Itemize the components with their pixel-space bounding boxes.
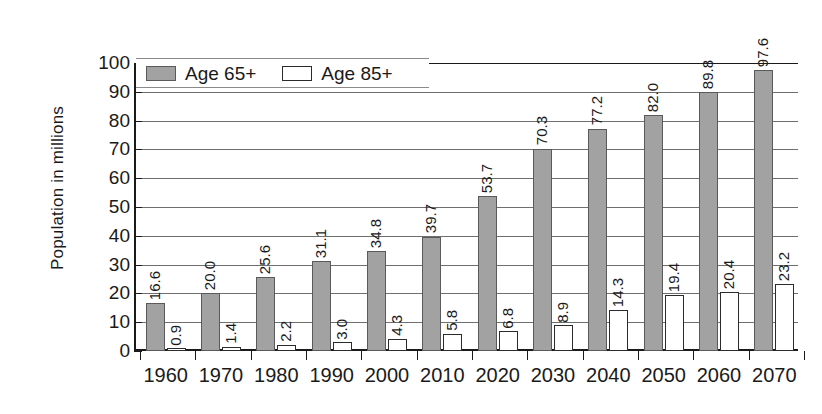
bar-age-85 <box>720 292 739 351</box>
bar-age-65 <box>146 303 165 351</box>
bar-age-85 <box>499 331 518 351</box>
x-tick-label: 1960 <box>138 364 194 386</box>
y-tick-label: 0 <box>86 341 130 360</box>
x-tick-label: 2020 <box>470 364 526 386</box>
bar-value-label-age-65: 20.0 <box>202 261 217 290</box>
bar-age-65 <box>644 115 663 351</box>
y-tick-label: 90 <box>86 82 130 101</box>
x-tick-label: 1970 <box>193 364 249 386</box>
x-tick-label: 2010 <box>414 364 470 386</box>
bar-value-label-age-65: 70.3 <box>534 116 549 145</box>
bar-value-label-age-85: 1.4 <box>223 323 238 344</box>
y-tick-label: 20 <box>86 283 130 302</box>
bar-age-65 <box>422 237 441 351</box>
x-tick-label: 1990 <box>304 364 360 386</box>
bar-value-label-age-65: 82.0 <box>645 83 660 112</box>
bar-age-65 <box>367 251 386 351</box>
legend-item-age-65: Age 65+ <box>146 64 256 83</box>
x-tick-mark <box>361 351 362 360</box>
bar-value-label-age-65: 25.6 <box>257 245 272 274</box>
bar-age-65 <box>201 293 220 351</box>
y-tick-label: 50 <box>86 197 130 216</box>
legend-item-age-85: Age 85+ <box>282 64 392 83</box>
bar-age-85 <box>554 325 573 351</box>
x-tick-mark <box>306 351 307 360</box>
bar-value-label-age-65: 16.6 <box>147 271 162 300</box>
x-tick-mark <box>749 351 750 360</box>
bar-age-65 <box>699 92 718 351</box>
bar-value-label-age-85: 2.2 <box>278 321 293 342</box>
bar-age-85 <box>609 310 628 351</box>
y-tick-label: 70 <box>86 139 130 158</box>
x-tick-label: 1980 <box>248 364 304 386</box>
bars-layer: 16.60.920.01.425.62.231.13.034.84.339.75… <box>134 63 798 351</box>
bar-age-85 <box>222 347 241 351</box>
legend-label-age-65: Age 65+ <box>185 64 256 83</box>
bar-age-85 <box>665 295 684 351</box>
legend-swatch-age-65 <box>146 66 176 81</box>
bar-value-label-age-65: 31.1 <box>313 229 328 258</box>
x-tick-mark <box>583 351 584 360</box>
bar-value-label-age-65: 77.2 <box>589 96 604 125</box>
bar-value-label-age-85: 19.4 <box>666 263 681 292</box>
x-tick-label: 2050 <box>636 364 692 386</box>
x-tick-mark <box>417 351 418 360</box>
x-tick-label: 2000 <box>359 364 415 386</box>
bar-age-85 <box>333 342 352 351</box>
y-tick-label: 60 <box>86 168 130 187</box>
bar-value-label-age-85: 14.3 <box>610 278 625 307</box>
bar-value-label-age-65: 97.6 <box>755 38 770 67</box>
x-tick-mark <box>527 351 528 360</box>
x-tick-mark <box>693 351 694 360</box>
y-axis-tick-labels: 0102030405060708090100 <box>78 0 130 414</box>
bar-age-85 <box>167 348 186 351</box>
x-tick-label: 2040 <box>580 364 636 386</box>
bar-value-label-age-85: 8.9 <box>555 302 570 323</box>
bar-age-65 <box>312 261 331 351</box>
legend-swatch-age-85 <box>282 66 312 81</box>
bar-age-65 <box>533 149 552 351</box>
x-tick-mark <box>472 351 473 360</box>
bar-value-label-age-85: 6.8 <box>500 308 515 329</box>
bar-age-85 <box>277 345 296 351</box>
x-tick-mark <box>195 351 196 360</box>
population-bar-chart: Population in millions 01020304050607080… <box>0 0 822 414</box>
bar-value-label-age-65: 39.7 <box>423 204 438 233</box>
x-tick-mark <box>804 351 805 360</box>
bar-age-85 <box>388 339 407 351</box>
bar-value-label-age-65: 89.8 <box>700 60 715 89</box>
bar-value-label-age-85: 3.0 <box>334 319 349 340</box>
bar-value-label-age-85: 5.8 <box>444 310 459 331</box>
y-tick-label: 100 <box>86 53 130 72</box>
bar-value-label-age-85: 4.3 <box>389 315 404 336</box>
bar-age-85 <box>443 334 462 351</box>
y-tick-label: 30 <box>86 255 130 274</box>
bar-value-label-age-65: 34.8 <box>368 219 383 248</box>
x-tick-mark <box>638 351 639 360</box>
bar-age-65 <box>478 196 497 351</box>
x-tick-label: 2070 <box>746 364 802 386</box>
y-tick-label: 40 <box>86 226 130 245</box>
bar-age-65 <box>754 70 773 351</box>
y-tick-label: 80 <box>86 111 130 130</box>
x-tick-mark <box>251 351 252 360</box>
x-tick-label: 2060 <box>691 364 747 386</box>
x-tick-label: 2030 <box>525 364 581 386</box>
legend-label-age-85: Age 85+ <box>321 64 392 83</box>
chart-legend: Age 65+ Age 85+ <box>136 58 429 88</box>
bar-age-65 <box>256 277 275 351</box>
bar-value-label-age-65: 53.7 <box>479 164 494 193</box>
bar-value-label-age-85: 0.9 <box>168 325 183 346</box>
y-tick-label: 10 <box>86 312 130 331</box>
x-tick-mark <box>140 351 141 360</box>
y-axis-title: Population in millions <box>48 58 82 318</box>
bar-value-label-age-85: 20.4 <box>721 260 736 289</box>
bar-age-65 <box>588 129 607 351</box>
bar-age-85 <box>775 284 794 351</box>
bar-value-label-age-85: 23.2 <box>776 252 791 281</box>
